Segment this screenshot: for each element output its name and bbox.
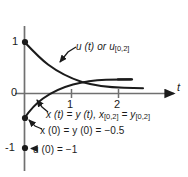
- x-axis-name: t: [177, 82, 180, 93]
- figure-container: 1 0 -1 1 2 t u (t) or u[0,2] x (t) = y (…: [0, 0, 188, 177]
- y-tick-label-1: 1: [12, 36, 18, 47]
- annotation-xy-initial-value: x (0) = y (0) = −0.5: [40, 126, 125, 136]
- point-u0-neg1: [22, 145, 28, 151]
- annotation-u-initial-value: u (0) = −1: [33, 145, 77, 155]
- point-xy-at-0: [22, 115, 28, 121]
- annotation-xy-part2: = y: [119, 109, 136, 120]
- annotation-u-curve: u (t) or u[0,2]: [76, 42, 129, 53]
- annotation-xy-sub2: [0,2]: [135, 112, 150, 121]
- annotation-xy-part1: x (t) = y (t), x: [46, 109, 104, 120]
- plot-canvas: [0, 0, 188, 177]
- point-u-at-0: [22, 39, 28, 45]
- annotation-u-curve-text: u (t) or u: [76, 41, 115, 52]
- y-tick-label-0: 0: [11, 87, 17, 98]
- annotation-xy-curve: x (t) = y (t), x[0,2] = y[0,2]: [46, 110, 150, 121]
- annotation-u-curve-subscript: [0,2]: [115, 44, 130, 53]
- y-tick-label-neg-1: -1: [5, 142, 15, 153]
- leader-line-u: [60, 47, 76, 62]
- annotation-xy-sub1: [0,2]: [104, 112, 119, 121]
